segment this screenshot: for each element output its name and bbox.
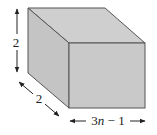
box-diagram: 2 2 3n − 1 — [0, 0, 157, 135]
depth-label: 2 — [36, 91, 43, 106]
front-face — [69, 43, 145, 108]
width-label: 3n − 1 — [91, 113, 124, 128]
height-label: 2 — [13, 35, 20, 50]
